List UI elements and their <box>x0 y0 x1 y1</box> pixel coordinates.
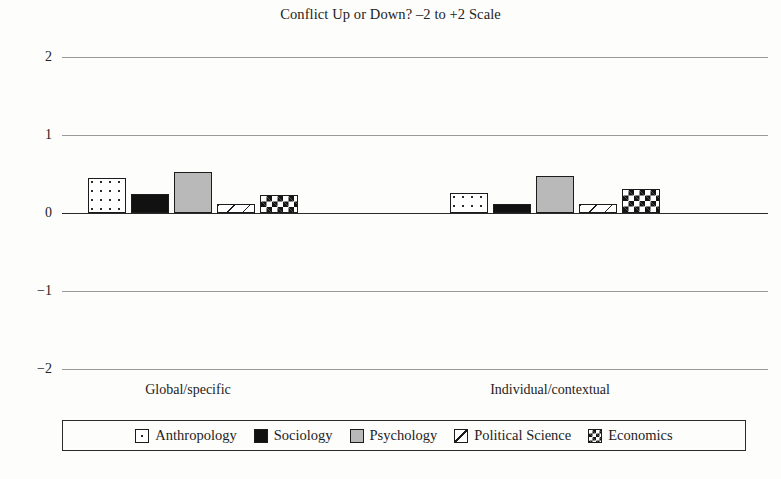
y-axis-tick-label: 2 <box>45 49 52 65</box>
legend-label: Psychology <box>370 427 438 444</box>
chart-title: Conflict Up or Down? –2 to +2 Scale <box>0 6 781 23</box>
y-axis-tick-label: −2 <box>37 361 52 377</box>
legend-item[interactable]: Anthropology <box>135 427 236 444</box>
bar <box>493 204 531 213</box>
legend-label: Anthropology <box>155 427 236 444</box>
legend-swatch-icon <box>254 429 268 443</box>
legend-label: Economics <box>608 427 672 444</box>
x-axis-label: Global/specific <box>145 382 231 398</box>
bar <box>174 172 212 213</box>
legend-label: Sociology <box>274 427 333 444</box>
legend-swatch-icon <box>135 429 149 443</box>
bar-group <box>88 57 300 369</box>
x-axis-label: Individual/contextual <box>490 382 610 398</box>
y-axis-tick-label: 0 <box>45 205 52 221</box>
legend-item[interactable]: Sociology <box>254 427 333 444</box>
bar-chart: Conflict Up or Down? –2 to +2 Scale 210−… <box>0 0 781 479</box>
plot-area: 210−1−2 <box>62 57 768 369</box>
legend-item[interactable]: Political Science <box>454 427 571 444</box>
gridline: −2 <box>62 369 768 370</box>
chart-legend: AnthropologySociologyPsychologyPolitical… <box>62 420 746 451</box>
bar <box>217 204 255 213</box>
legend-swatch-icon <box>454 429 468 443</box>
legend-label: Political Science <box>474 427 571 444</box>
bar <box>88 178 126 213</box>
y-axis-tick-label: −1 <box>37 283 52 299</box>
bar <box>450 193 488 213</box>
legend-swatch-icon <box>588 429 602 443</box>
bar <box>260 195 298 213</box>
bar <box>131 194 169 213</box>
y-axis-tick-label: 1 <box>45 127 52 143</box>
legend-item[interactable]: Psychology <box>350 427 438 444</box>
bar-group <box>450 57 662 369</box>
legend-swatch-icon <box>350 429 364 443</box>
legend-item[interactable]: Economics <box>588 427 672 444</box>
bar <box>536 176 574 213</box>
bar <box>579 204 617 213</box>
bar <box>622 189 660 213</box>
